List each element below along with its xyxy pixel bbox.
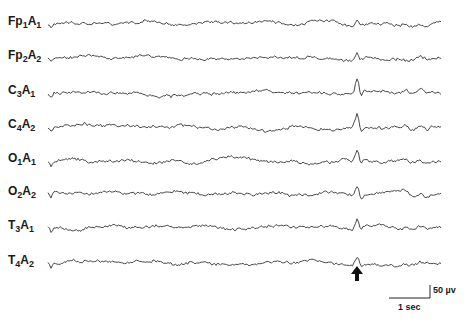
trace-o1a1	[48, 150, 441, 167]
amplitude-scale-label: 50 µv	[433, 285, 456, 295]
scale-bar	[389, 285, 430, 298]
up-arrow-icon	[351, 266, 363, 281]
time-scale-label: 1 sec	[398, 302, 421, 312]
trace-fp2a2	[48, 53, 441, 62]
eeg-traces	[0, 0, 469, 320]
trace-c3a1	[48, 79, 441, 98]
trace-o2a2	[48, 187, 441, 199]
trace-t4a2	[48, 258, 441, 269]
trace-t3a1	[48, 219, 441, 233]
trace-group	[48, 20, 441, 268]
trace-fp1a1	[48, 20, 441, 28]
trace-c4a2	[48, 114, 441, 133]
